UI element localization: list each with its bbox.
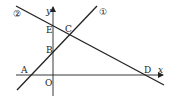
point-b-label: B	[46, 45, 53, 55]
x-axis-label: x	[158, 65, 163, 75]
point-a-label: A	[20, 65, 28, 75]
origin-label: O	[45, 78, 52, 88]
line-1	[17, 6, 97, 90]
line-2	[16, 6, 164, 85]
line-1-label: ①	[99, 7, 107, 17]
point-d-label: D	[144, 65, 151, 75]
line-2-label: ②	[13, 9, 21, 19]
y-axis-label: y	[45, 6, 52, 16]
coordinate-diagram: ② ① y x O E C B A D	[0, 0, 175, 101]
point-e-label: E	[46, 25, 53, 35]
point-c-label: C	[65, 24, 72, 34]
